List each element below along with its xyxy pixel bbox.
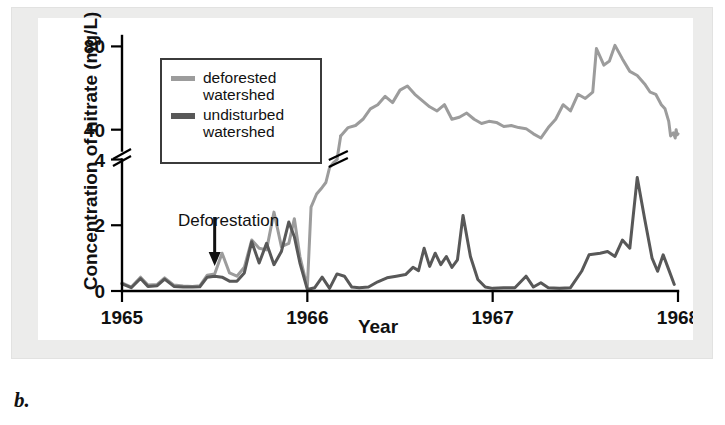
x-axis-title: Year	[358, 316, 399, 337]
legend-item-deforested: deforested watershed	[171, 69, 312, 103]
y-tick-label-0: 0	[94, 281, 105, 302]
nitrate-concentration-line-chart: 02440801965196619671968 Year	[38, 18, 693, 340]
x-tick-label-1967: 1967	[472, 307, 514, 328]
legend-swatch-deforested	[171, 76, 195, 81]
panel-caption: b.	[14, 388, 30, 413]
legend-label-undisturbed-line2: watershed	[203, 123, 275, 140]
series-line-undisturbed-watershed	[122, 178, 674, 290]
y-tick-label-40: 40	[84, 120, 105, 141]
legend-swatch-undisturbed	[171, 113, 195, 119]
legend-label-deforested: deforested watershed	[203, 69, 276, 103]
legend-label-undisturbed-line1: undisturbed	[203, 106, 284, 123]
figure-frame: Concentration of nitrate (mg/L) 02440801…	[12, 8, 712, 358]
legend-label-deforested-line2: watershed	[203, 86, 275, 103]
y-tick-label-2: 2	[94, 215, 105, 236]
y-tick-label-4: 4	[94, 150, 105, 171]
y-tick-label-80: 80	[84, 36, 105, 57]
x-axis-title-text: Year	[358, 316, 399, 337]
x-tick-label-1965: 1965	[101, 307, 144, 328]
deforestation-annotation: Deforestation	[178, 211, 279, 231]
x-tick-label-1966: 1966	[286, 307, 328, 328]
x-tick-label-1968: 1968	[657, 307, 693, 328]
legend-label-undisturbed: undisturbed watershed	[203, 106, 284, 140]
legend-label-deforested-line1: deforested	[203, 69, 276, 86]
legend-item-undisturbed: undisturbed watershed	[171, 106, 312, 140]
chart-legend: deforested watershed undisturbed watersh…	[160, 58, 322, 164]
plot-card: Concentration of nitrate (mg/L) 02440801…	[38, 18, 693, 340]
